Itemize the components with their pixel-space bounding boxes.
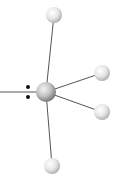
lone-pair-electron-dot: [26, 85, 30, 89]
molecule-diagram: [0, 0, 120, 186]
atom-right-lower: [94, 104, 110, 120]
atom-right-upper: [94, 65, 110, 81]
atom-bottom: [44, 158, 60, 174]
bond-top: [46, 15, 54, 92]
central-atom: [36, 82, 56, 102]
seesaw-geometry-svg: [0, 0, 120, 186]
atom-top: [46, 7, 62, 23]
bond-bottom: [46, 92, 52, 166]
lone-pair-electron-dot: [26, 95, 30, 99]
